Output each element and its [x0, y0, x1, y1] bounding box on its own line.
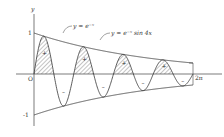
period-label: 2π	[195, 74, 203, 81]
origin-label: O	[28, 75, 33, 82]
y-axis-label: y	[30, 5, 35, 13]
minus-sign: –	[181, 77, 184, 84]
tick-label-1: 1	[28, 29, 32, 36]
minus-sign: –	[62, 88, 65, 95]
function-label-pointer	[100, 33, 110, 40]
plus-sign: +	[42, 49, 47, 56]
minus-sign: –	[142, 79, 145, 86]
tick-label-neg1: -1	[23, 111, 29, 118]
function-label: y = e⁻ˣ sin 4x	[110, 29, 153, 37]
upper-envelope-curve	[34, 33, 193, 63]
plus-sign: +	[161, 62, 166, 69]
envelope-label-pointer	[63, 26, 72, 33]
damped-sine-figure: y 1 -1 O y = e⁻ˣ y = e⁻ˣ sin 4x 2π +–+–+…	[0, 0, 224, 137]
envelope-label: y = e⁻ˣ	[72, 22, 95, 30]
lower-envelope-curve	[34, 85, 193, 115]
plus-sign: +	[82, 55, 87, 62]
plus-sign: +	[122, 59, 127, 66]
minus-sign: –	[102, 83, 105, 90]
